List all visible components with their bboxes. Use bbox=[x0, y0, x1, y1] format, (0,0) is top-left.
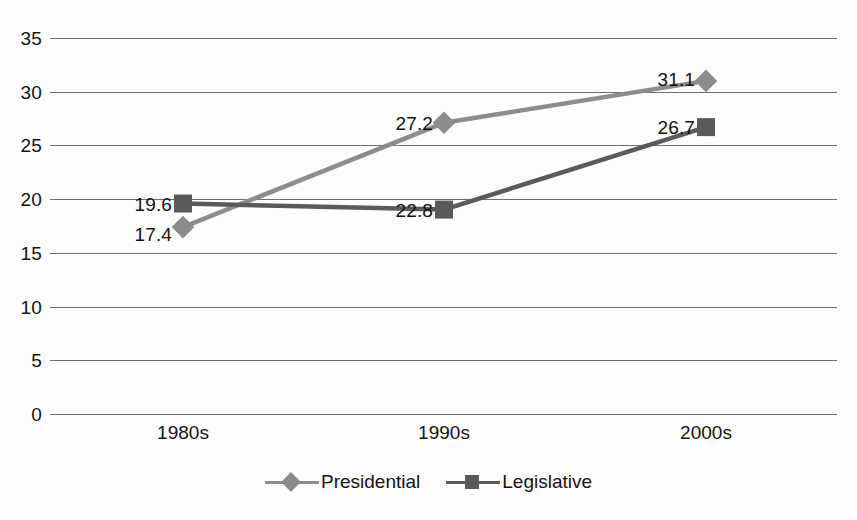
data-label-presidential-1980s: 17.4 bbox=[135, 224, 172, 243]
data-label-legislative-1990s: 22.8 bbox=[396, 200, 433, 219]
marker-legislative-2000s bbox=[697, 118, 715, 136]
marker-legislative-1980s bbox=[174, 195, 192, 213]
data-label-presidential-2000s: 31.1 bbox=[658, 69, 695, 88]
legend-label-legislative: Legislative bbox=[502, 472, 592, 492]
marker-presidential-1990s bbox=[433, 111, 456, 134]
legend-item-presidential: Presidential bbox=[265, 472, 420, 492]
marker-legislative-1990s bbox=[435, 201, 453, 219]
line-chart: 35 30 25 20 15 10 5 0 19.6 17.4 27.2 22.… bbox=[0, 0, 857, 520]
legend-item-legislative: Legislative bbox=[446, 472, 592, 492]
x-axis: 1980s 1990s 2000s bbox=[50, 422, 837, 452]
data-label-presidential-1990s: 27.2 bbox=[396, 113, 433, 132]
x-tick-label-2000s: 2000s bbox=[680, 422, 732, 444]
marker-presidential-1980s bbox=[172, 216, 195, 239]
marker-presidential-2000s bbox=[695, 70, 718, 93]
legend-marker-square-icon bbox=[446, 472, 500, 492]
legend-label-presidential: Presidential bbox=[321, 472, 420, 492]
x-tick-label-1990s: 1990s bbox=[418, 422, 470, 444]
data-label-legislative-1980s: 19.6 bbox=[135, 194, 172, 213]
chart-legend: Presidential Legislative bbox=[0, 472, 857, 492]
x-tick-label-1980s: 1980s bbox=[157, 422, 209, 444]
data-label-legislative-2000s: 26.7 bbox=[658, 118, 695, 137]
legend-marker-diamond-icon bbox=[265, 472, 319, 492]
